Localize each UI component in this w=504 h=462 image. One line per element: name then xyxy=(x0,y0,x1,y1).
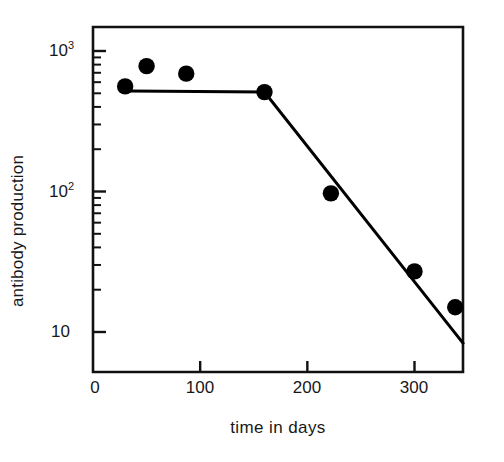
plot-area xyxy=(0,0,504,462)
trend-line xyxy=(128,91,463,344)
data-point xyxy=(117,78,133,94)
data-point xyxy=(178,65,194,81)
chart-figure: antibody production time in days 103 102… xyxy=(0,0,504,462)
data-point xyxy=(323,185,339,201)
data-point xyxy=(406,263,422,279)
data-point xyxy=(447,299,463,315)
data-point xyxy=(256,84,272,100)
x-axis-ticks xyxy=(200,361,414,372)
y-axis-ticks xyxy=(93,51,106,332)
data-point xyxy=(138,58,154,74)
data-points xyxy=(117,58,463,316)
fit-line xyxy=(128,91,463,344)
plot-frame xyxy=(93,27,463,372)
axes-frame xyxy=(93,27,463,372)
